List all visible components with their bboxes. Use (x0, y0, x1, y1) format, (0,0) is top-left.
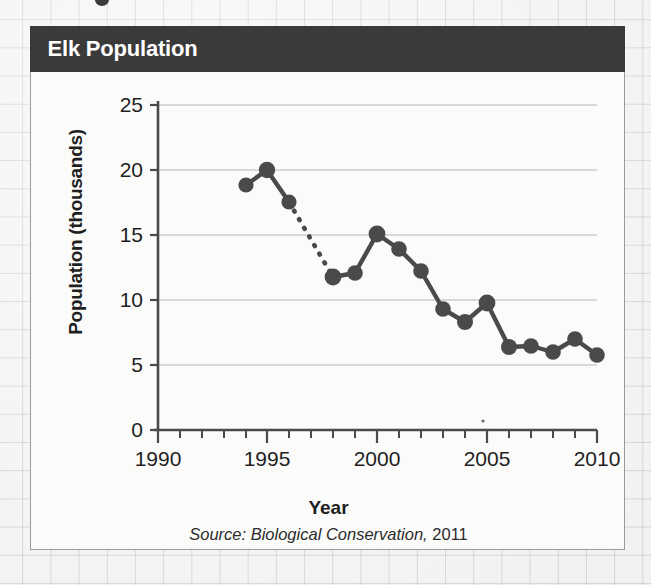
x-axis-title: Year (31, 497, 626, 519)
data-point (457, 314, 473, 330)
source-year: 2011 (432, 525, 467, 543)
chart-title: Elk Population (48, 36, 198, 62)
data-point (259, 162, 275, 178)
line-chart-svg: 0 5 10 15 20 25 (31, 73, 626, 493)
data-point (347, 265, 363, 281)
data-point (589, 347, 605, 363)
y-axis-title: Population (thousands) (65, 92, 87, 372)
data-point (238, 177, 253, 192)
data-point (479, 295, 496, 312)
y-tick-label: 20 (120, 158, 143, 181)
series-markers (238, 162, 604, 363)
data-point (567, 331, 583, 347)
data-point (413, 263, 429, 279)
x-tick-label: 2010 (574, 447, 621, 470)
y-tick-label: 25 (120, 93, 143, 116)
series-segment-late (333, 234, 597, 355)
data-point (435, 301, 451, 317)
x-tick-label: 2000 (354, 447, 401, 470)
y-tick-label: 15 (120, 223, 143, 246)
data-point (501, 339, 517, 355)
data-point (369, 226, 386, 243)
plot-speck (481, 419, 484, 422)
x-tick-label: 2005 (464, 447, 511, 470)
data-point (281, 194, 296, 209)
data-point (325, 269, 342, 286)
axis-lines (154, 101, 597, 430)
chart-plot-zone: Population (thousands) (31, 73, 626, 551)
source-prefix: Source: Biological Conservation, (189, 525, 427, 543)
x-tick-label: 1995 (244, 447, 291, 470)
y-tick-label: 5 (131, 353, 143, 376)
data-point (391, 241, 407, 257)
source-note: Source: Biological Conservation, 2011 (31, 525, 626, 544)
chart-card: Elk Population Population (thousands) (30, 26, 625, 550)
series-gap-dashed-segment (289, 202, 333, 277)
y-tick-label: 10 (120, 288, 143, 311)
y-tick-label: 0 (131, 418, 143, 441)
data-point (545, 344, 561, 360)
x-axis-tick-labels: 1990 1995 2000 2005 2010 (135, 447, 621, 470)
data-point (523, 338, 539, 354)
x-tick-label: 1990 (135, 447, 182, 470)
chart-title-bar: Elk Population (30, 26, 625, 72)
y-axis-tick-labels: 0 5 10 15 20 25 (120, 93, 143, 441)
